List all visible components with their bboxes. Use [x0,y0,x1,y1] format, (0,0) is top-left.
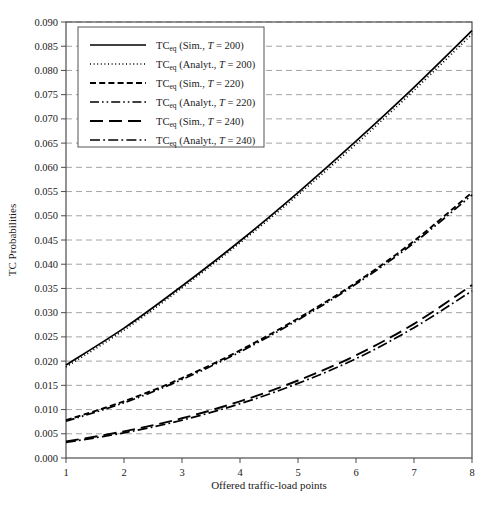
y-tick-label: 0.030 [34,307,58,318]
y-tick-label: 0.025 [34,331,58,342]
y-tick-label: 0.055 [34,186,58,197]
y-tick-label: 0.090 [34,17,58,28]
y-tick-label: 0.010 [34,404,58,415]
y-tick-label: 0.075 [34,89,58,100]
x-tick-label: 8 [469,467,474,478]
y-tick-label: 0.050 [34,210,58,221]
tc-probabilities-line-chart: 0.0000.0050.0100.0150.0200.0250.0300.035… [0,0,491,506]
y-tick-label: 0.080 [34,65,58,76]
y-tick-label: 0.020 [34,356,58,367]
x-tick-label: 3 [179,467,184,478]
y-axis-title: TC Probabilities [6,204,18,276]
x-tick-label: 5 [295,467,300,478]
y-tick-label: 0.035 [34,283,58,294]
y-tick-label: 0.065 [34,138,58,149]
chart-figure: 0.0000.0050.0100.0150.0200.0250.0300.035… [0,0,491,506]
chart-legend: TCeq (Sim., T = 200)TCeq (Analyt., T = 2… [78,27,264,148]
x-tick-label: 2 [121,467,126,478]
y-tick-label: 0.000 [34,453,58,464]
y-tick-label: 0.005 [34,428,58,439]
y-tick-label: 0.070 [34,113,58,124]
x-axis-title: Offered traffic-load points [211,479,327,491]
x-tick-label: 6 [353,467,358,478]
y-tick-label: 0.060 [34,162,58,173]
y-tick-label: 0.040 [34,259,58,270]
x-tick-label: 7 [411,467,416,478]
x-tick-label: 1 [63,467,68,478]
y-tick-label: 0.015 [34,380,58,391]
y-tick-label: 0.045 [34,235,58,246]
y-tick-label: 0.085 [34,41,58,52]
x-tick-label: 4 [237,467,243,478]
